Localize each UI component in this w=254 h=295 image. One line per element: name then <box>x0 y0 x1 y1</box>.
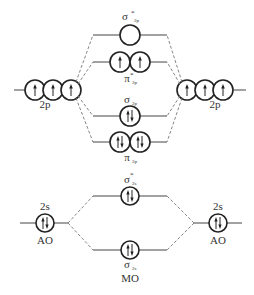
subscript: 2s <box>132 266 137 271</box>
orbital-circle <box>209 214 227 232</box>
left-2s-label: 2s <box>40 200 50 212</box>
pi-2p-label: π <box>124 151 130 163</box>
right-2p-atomic-orbital: 2p <box>177 80 246 110</box>
subscript: 2p <box>132 159 138 164</box>
pi-2p-orbital: π 2p <box>93 132 167 164</box>
orbital-circle <box>36 214 54 232</box>
star-superscript: * <box>130 71 134 79</box>
orbital-circle <box>120 25 140 45</box>
sigma-2s-orbital: σ 2s MO <box>93 241 167 284</box>
right-ao-label: AO <box>210 234 226 246</box>
mo-caption: MO <box>121 272 139 284</box>
subscript: 2p <box>132 80 138 85</box>
left-2p-label: 2p <box>40 98 52 110</box>
orbital-circle <box>121 241 139 259</box>
orbital-circle <box>130 132 150 152</box>
sigma-2p-orbital: σ 2p <box>93 93 167 126</box>
orbital-circle <box>121 187 139 205</box>
subscript: 2p <box>132 101 138 106</box>
left-2s-atomic-orbital: 2s AO <box>20 200 68 246</box>
sigma-star-2s-orbital: σ * 2s <box>93 171 167 205</box>
left-2p-atomic-orbital: 2p <box>14 80 81 110</box>
left-ao-label: AO <box>37 234 53 246</box>
mo-diagram: 2p 2p σ * 2p π * <box>0 0 254 295</box>
sigma-star-2p-label: σ <box>122 10 128 22</box>
right-2s-label: 2s <box>213 200 223 212</box>
pi-star-2p-orbital: π * 2p <box>93 52 167 85</box>
star-superscript: * <box>130 171 134 179</box>
right-2s-atomic-orbital: 2s AO <box>194 200 242 246</box>
sigma-2s-label: σ <box>124 258 130 270</box>
sigma-2p-label: σ <box>124 93 130 105</box>
sigma-star-2p-orbital: σ * 2p <box>93 9 167 45</box>
orbital-circle <box>110 132 130 152</box>
subscript: 2s <box>132 181 137 186</box>
subscript: 2p <box>134 18 140 23</box>
star-superscript: * <box>131 9 135 17</box>
right-2p-label: 2p <box>210 98 222 110</box>
orbital-circle <box>120 106 140 126</box>
